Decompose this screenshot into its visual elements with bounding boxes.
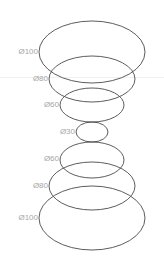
ring-ellipse-3: [76, 122, 108, 142]
ring-ellipse-0: [39, 21, 145, 83]
stacked-ellipse-diagram: Ø100 Ø80 Ø60 Ø30 Ø60 Ø80 Ø100: [0, 0, 164, 260]
ring-label-diameter-60-bottom: Ø60: [44, 155, 59, 163]
ring-label-diameter-80-bottom: Ø80: [33, 182, 48, 190]
ring-ellipse-4: [60, 142, 124, 178]
ring-ellipse-6: [39, 186, 145, 250]
ring-label-diameter-60-top: Ø60: [44, 101, 59, 109]
ring-label-diameter-100-top: Ø100: [18, 48, 38, 56]
ring-label-diameter-30-middle: Ø30: [60, 128, 75, 136]
ring-ellipse-1: [49, 56, 135, 102]
ring-ellipse-2: [60, 88, 124, 122]
ring-label-diameter-80-top: Ø80: [33, 75, 48, 83]
ring-label-diameter-100-bottom: Ø100: [18, 214, 38, 222]
